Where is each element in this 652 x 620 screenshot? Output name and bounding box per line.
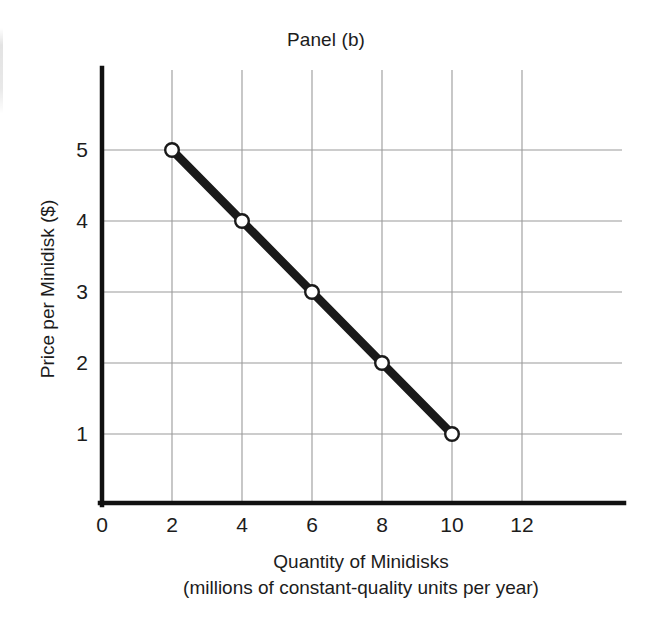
x-tick-label-0: 0 [82, 513, 122, 537]
x-tick-label-8: 8 [362, 513, 402, 537]
y-tick-label-1: 1 [58, 422, 88, 446]
y-tick-label-5: 5 [58, 138, 88, 162]
vertical-gridlines [172, 70, 522, 504]
x-axis-title: Quantity of Minidisks (millions of const… [96, 549, 626, 601]
chart-figure: Panel (b) [0, 0, 652, 620]
data-point-8-2 [375, 356, 389, 370]
y-axis-title: Price per Minidisk ($) [37, 89, 59, 489]
data-point-6-3 [305, 285, 319, 299]
data-point-4-4 [235, 214, 249, 228]
horizontal-gridlines [101, 150, 622, 434]
y-tick-label-4: 4 [58, 209, 88, 233]
x-axis-title-line1: Quantity of Minidisks [273, 551, 448, 572]
x-tick-label-12: 12 [502, 513, 542, 537]
data-point-2-5 [165, 143, 179, 157]
data-point-10-1 [445, 427, 459, 441]
y-tick-label-2: 2 [58, 351, 88, 375]
x-tick-label-10: 10 [432, 513, 472, 537]
x-axis-title-line2: (millions of constant-quality units per … [96, 575, 626, 601]
y-tick-label-3: 3 [58, 280, 88, 304]
x-tick-label-4: 4 [222, 513, 262, 537]
x-tick-label-6: 6 [292, 513, 332, 537]
x-tick-label-2: 2 [152, 513, 192, 537]
